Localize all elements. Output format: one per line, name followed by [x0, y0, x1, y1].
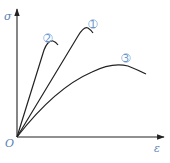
svg-text:3: 3 — [123, 53, 129, 64]
curve-1-label: 1 — [89, 19, 98, 30]
stress-strain-diagram: σ ε O 2 1 3 — [0, 0, 170, 163]
curve-2 — [17, 41, 58, 137]
x-axis-label: ε — [154, 142, 160, 155]
svg-text:2: 2 — [45, 33, 51, 44]
curve-3-label: 3 — [122, 53, 131, 64]
y-axis-label: σ — [4, 10, 12, 23]
svg-text:1: 1 — [90, 19, 96, 30]
curve-1 — [17, 28, 93, 137]
origin-label: O — [5, 137, 14, 150]
curve-2-label: 2 — [44, 33, 53, 44]
